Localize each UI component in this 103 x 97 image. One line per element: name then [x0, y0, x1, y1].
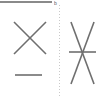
figure-root: b: [0, 0, 103, 97]
x-shape-panel: [0, 0, 59, 97]
asterisk-star-glyph: [65, 18, 103, 88]
asterisk-shape-panel: [60, 0, 103, 97]
x-cross-glyph: [10, 18, 50, 80]
